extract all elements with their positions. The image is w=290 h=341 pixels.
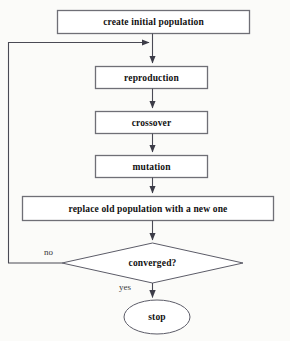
node-crossover (96, 112, 208, 134)
node-replace-old-population (23, 197, 274, 221)
node-stop (124, 300, 190, 334)
node-create-initial-population (58, 11, 250, 34)
node-reproduction (96, 67, 208, 89)
node-mutation (96, 156, 208, 178)
node-converged (62, 243, 243, 283)
flowchart-canvas: create initial population reproduction c… (0, 0, 290, 341)
flowchart-graphics (0, 0, 290, 341)
